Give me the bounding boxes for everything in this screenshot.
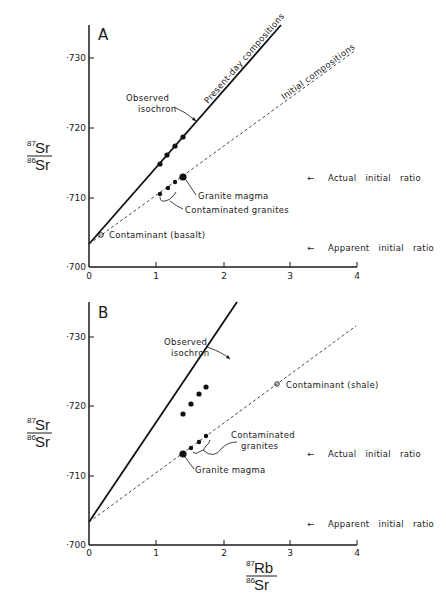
svg-text:Sr: Sr <box>35 156 50 173</box>
panel-b-contaminant-label: Contaminant (shale) <box>286 380 379 390</box>
panel-b-x-tick-1: 1 <box>153 548 159 558</box>
panel-b: ·700 ·710 ·720 ·730 0 1 2 3 4 B 87 Sr 86… <box>27 302 434 593</box>
panel-a-y-tick-730: ·730 <box>66 53 86 63</box>
panel-a-initial-label: Initial compositions <box>279 41 357 101</box>
panel-b-x-tick-4: 4 <box>354 548 360 558</box>
panel-a-y-tick-720: ·720 <box>66 123 86 133</box>
panel-a: ·700 ·710 ·720 ·730 0 1 2 3 4 A 87 Sr 86… <box>27 11 434 281</box>
panel-a-actual-arrow-icon: ← <box>307 173 314 183</box>
panel-b-contaminated-point <box>197 440 201 444</box>
panel-b-sample-point <box>180 411 185 416</box>
panel-b-x-axis-label: 87 Rb 86 Sr <box>246 559 277 593</box>
svg-text:Sr: Sr <box>254 576 269 593</box>
panel-a-x-tick-0: 0 <box>86 271 92 281</box>
panel-a-isochron-leader <box>174 107 196 121</box>
panel-b-y-tick-700: ·700 <box>66 540 86 550</box>
panel-a-sample-point <box>180 134 185 139</box>
panel-a-observed-isochron-label: Observed <box>126 93 169 103</box>
panel-a-y-tick-700: ·700 <box>66 262 86 272</box>
isochron-figure: ·700 ·710 ·720 ·730 0 1 2 3 4 A 87 Sr 86… <box>0 0 446 600</box>
panel-b-y-axis-label: 87 Sr 86 Sr <box>27 416 52 450</box>
panel-a-y-tick-710: ·710 <box>66 193 86 203</box>
panel-b-sample-point <box>203 384 208 389</box>
panel-a-present-day-label: Present-day compositions <box>202 11 287 106</box>
panel-b-contaminated-point <box>204 434 208 438</box>
svg-text:Rb: Rb <box>254 559 273 576</box>
panel-b-granite-magma-label: Granite magma <box>195 465 266 475</box>
panel-a-granite-magma-point <box>179 173 186 180</box>
panel-b-apparent-arrow-icon: ← <box>307 519 314 529</box>
panel-b-granite-magma-point <box>179 450 186 457</box>
panel-a-x-tick-3: 3 <box>287 271 293 281</box>
panel-a-contaminated-label: Contaminated granites <box>185 205 289 215</box>
panel-b-x-tick-2: 2 <box>221 548 227 558</box>
panel-a-contaminated-point <box>173 180 177 184</box>
panel-b-x-tick-0: 0 <box>86 548 92 558</box>
panel-b-sample-point <box>196 391 201 396</box>
panel-a-x-tick-1: 1 <box>153 271 159 281</box>
panel-b-actual-arrow-icon: ← <box>307 449 314 459</box>
panel-a-x-tick-4: 4 <box>354 271 360 281</box>
panel-a-granite-magma-label: Granite magma <box>198 191 269 201</box>
panel-a-label: A <box>98 26 109 44</box>
panel-a-contaminated-point <box>158 192 162 196</box>
panel-b-observed-isochron-line <box>89 302 237 522</box>
panel-a-sample-point <box>164 152 169 157</box>
panel-b-sample-point <box>188 401 193 406</box>
panel-b-apparent-initial-ratio: Apparent initial ratio <box>328 519 434 529</box>
panel-a-contaminant-label: Contaminant (basalt) <box>109 230 205 240</box>
svg-text:isochron: isochron <box>138 104 176 114</box>
svg-text:Sr: Sr <box>35 416 50 433</box>
panel-a-sample-point <box>172 143 177 148</box>
panel-b-x-tick-3: 3 <box>287 548 293 558</box>
panel-b-y-tick-720: ·720 <box>66 401 86 411</box>
svg-text:isochron: isochron <box>171 348 209 358</box>
panel-b-initial-compositions-line <box>89 326 356 522</box>
panel-b-label: B <box>98 304 108 322</box>
panel-a-contaminated-point <box>166 186 170 190</box>
panel-a-apparent-initial-ratio: Apparent initial ratio <box>328 243 434 253</box>
panel-b-y-tick-730: ·730 <box>66 332 86 342</box>
svg-text:Sr: Sr <box>35 433 50 450</box>
panel-a-y-axis-label: 87 Sr 86 Sr <box>27 139 52 173</box>
panel-a-sample-point <box>157 161 162 166</box>
panel-a-x-tick-2: 2 <box>221 271 227 281</box>
panel-b-observed-isochron-label: Observed <box>164 337 207 347</box>
panel-a-apparent-arrow-icon: ← <box>307 243 314 253</box>
svg-text:Sr: Sr <box>35 139 50 156</box>
panel-a-actual-initial-ratio: Actual initial ratio <box>328 173 421 183</box>
panel-b-actual-initial-ratio: Actual initial ratio <box>328 449 421 459</box>
panel-b-contaminated-label: Contaminated <box>231 430 295 440</box>
panel-b-y-tick-710: ·710 <box>66 471 86 481</box>
svg-text:granites: granites <box>241 441 279 451</box>
panel-b-contaminated-point <box>189 446 193 450</box>
